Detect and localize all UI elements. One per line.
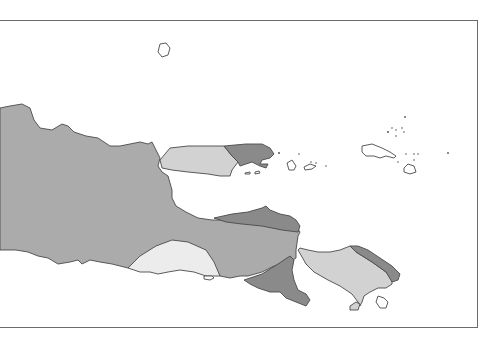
islet [278, 152, 280, 154]
islet [401, 127, 403, 129]
island-kangean [362, 144, 396, 158]
islet [387, 131, 389, 133]
islet [405, 153, 407, 155]
islet [310, 161, 312, 163]
islet [395, 135, 397, 137]
islet [417, 153, 419, 155]
island-paliat [404, 164, 416, 174]
region-madura-west [160, 146, 238, 176]
islet [391, 127, 393, 129]
map [0, 0, 498, 342]
island-raas [304, 164, 316, 170]
islet [397, 161, 399, 163]
island-small-a [245, 172, 250, 174]
islet [395, 129, 397, 131]
islet [413, 153, 415, 155]
region-bawean [158, 43, 170, 57]
islet [325, 165, 327, 167]
region-nusa-lembongan [350, 302, 360, 310]
islet [404, 116, 406, 118]
islet [298, 153, 300, 155]
islet [447, 152, 449, 154]
region-nusa-barung [204, 276, 214, 280]
region-nusa-penida [376, 296, 388, 308]
island-small-b [255, 171, 260, 174]
islet [413, 159, 415, 161]
islet [403, 131, 405, 133]
island-sapudi [287, 160, 296, 170]
islet [315, 162, 317, 164]
